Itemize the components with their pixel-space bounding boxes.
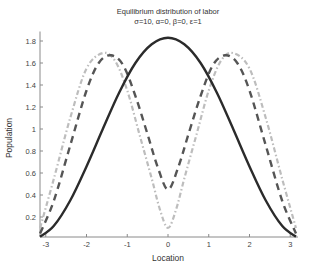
x-tick-label: 2 bbox=[247, 240, 251, 249]
x-tick-label: -3 bbox=[42, 240, 49, 249]
x-axis-label: Location bbox=[152, 253, 184, 263]
y-tick-label: 0.8 bbox=[26, 147, 36, 156]
x-tick-label: 0 bbox=[166, 240, 170, 249]
x-tick-label: -2 bbox=[83, 240, 90, 249]
y-tick-label: 1.6 bbox=[26, 59, 36, 68]
chart-subtitle: σ=10, α=0, β=0, ε=1 bbox=[134, 17, 202, 26]
x-tick-label: 1 bbox=[207, 240, 211, 249]
y-tick-label: 1.4 bbox=[26, 81, 36, 90]
y-axis-label: Population bbox=[4, 118, 14, 158]
y-tick-label: 1 bbox=[32, 125, 36, 134]
y-tick-label: 1.2 bbox=[26, 103, 36, 112]
series-solid bbox=[40, 38, 296, 237]
plot-series bbox=[40, 38, 296, 237]
y-tick-label: 0.4 bbox=[26, 191, 36, 200]
chart: Equilibrium distribution of labor σ=10, … bbox=[0, 0, 313, 274]
axes: 0.20.40.60.811.21.41.61.8-3-2-10123 bbox=[26, 32, 298, 250]
series-dark-dashed bbox=[40, 55, 296, 233]
x-tick-label: 3 bbox=[288, 240, 292, 249]
y-tick-label: 0.6 bbox=[26, 169, 36, 178]
series-light-dashed bbox=[40, 53, 296, 228]
x-tick-label: -1 bbox=[124, 240, 131, 249]
y-tick-label: 1.8 bbox=[26, 37, 36, 46]
y-tick-label: 0.2 bbox=[26, 213, 36, 222]
chart-title: Equilibrium distribution of labor bbox=[117, 7, 220, 16]
